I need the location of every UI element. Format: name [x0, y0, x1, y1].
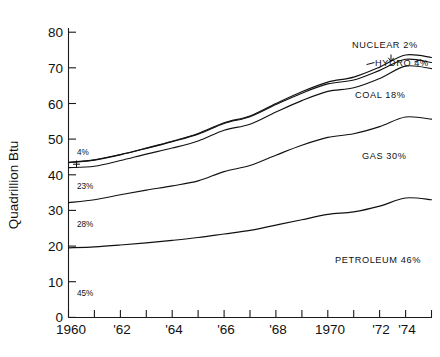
series-label-nuclear: NUCLEAR 2% [352, 40, 418, 50]
y-tick-label: 40 [48, 168, 63, 183]
x-tick-label: '64 [165, 322, 183, 337]
series-label-gas: GAS 30% [362, 151, 407, 161]
x-tick-label: '66 [217, 322, 235, 337]
chart-background [0, 0, 440, 357]
x-tick-label: '62 [113, 322, 131, 337]
y-tick-label: 80 [48, 25, 63, 40]
x-tick-label: '72 [372, 322, 390, 337]
x-tick-label: '74 [398, 322, 416, 337]
series-label-coal: COAL 18% [355, 90, 405, 100]
share-start-coal: 23% [77, 182, 93, 191]
series-label-hydro: HYDRO 4% [375, 58, 429, 68]
x-tick-label: 1960 [56, 322, 86, 337]
y-axis-tick-labels: 80 70 60 50 40 30 20 10 0 [48, 25, 63, 325]
y-tick-label: 20 [48, 239, 63, 254]
y-tick-label: 50 [48, 132, 63, 147]
share-start-hydro: 4% [77, 148, 89, 157]
share-start-gas: 28% [77, 220, 93, 229]
y-tick-label: 30 [48, 203, 63, 218]
x-tick-label: '68 [269, 322, 287, 337]
y-tick-label: 10 [48, 275, 63, 290]
y-tick-label: 60 [48, 97, 63, 112]
y-tick-label: 70 [48, 61, 63, 76]
energy-consumption-chart: 80 70 60 50 40 30 20 10 0 [0, 0, 440, 357]
series-label-petroleum: PETROLEUM 46% [335, 255, 421, 265]
y-axis-title: Quadrillion Btu [6, 141, 21, 230]
share-start-petroleum: 45% [77, 289, 93, 298]
x-tick-label: 1970 [315, 322, 345, 337]
chart-canvas: 80 70 60 50 40 30 20 10 0 [0, 0, 440, 357]
